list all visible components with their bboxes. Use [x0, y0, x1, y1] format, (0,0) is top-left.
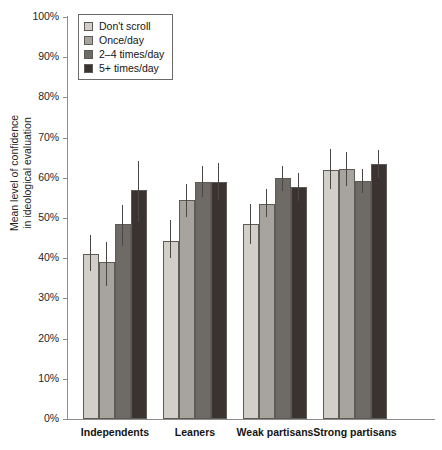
- legend-swatch-icon: [84, 64, 93, 73]
- error-bar: [138, 161, 139, 222]
- legend-item[interactable]: 2–4 times/day: [84, 47, 164, 61]
- error-bar: [330, 149, 331, 189]
- bar[interactable]: [179, 200, 195, 419]
- error-bar: [122, 205, 123, 246]
- bar[interactable]: [323, 170, 339, 419]
- error-bar: [90, 235, 91, 271]
- bar[interactable]: [339, 169, 355, 419]
- bar[interactable]: [291, 187, 307, 419]
- y-axis-tick-mark: [63, 419, 68, 420]
- bar-group: [323, 17, 387, 419]
- bar[interactable]: [163, 241, 179, 419]
- bar[interactable]: [243, 224, 259, 419]
- bar[interactable]: [211, 182, 227, 419]
- legend-swatch-icon: [84, 50, 93, 59]
- legend-item[interactable]: 5+ times/day: [84, 61, 164, 75]
- bar[interactable]: [355, 181, 371, 419]
- error-bar: [298, 173, 299, 201]
- y-axis-tick-label: 60%: [38, 171, 59, 184]
- bar[interactable]: [115, 224, 131, 419]
- error-bar: [250, 204, 251, 243]
- error-bar: [346, 152, 347, 186]
- legend-label: 5+ times/day: [99, 61, 159, 75]
- y-axis-tick-label: 20%: [38, 332, 59, 345]
- bar[interactable]: [275, 178, 291, 419]
- error-bar: [106, 242, 107, 286]
- y-axis-tick-label: 30%: [38, 291, 59, 304]
- bar[interactable]: [371, 164, 387, 419]
- bar-chart: Mean level of confidence in ideological …: [0, 0, 442, 450]
- error-bar: [266, 189, 267, 217]
- bar[interactable]: [83, 254, 99, 419]
- error-bar: [362, 169, 363, 193]
- bar[interactable]: [195, 182, 211, 419]
- error-bar: [202, 166, 203, 197]
- error-bar: [378, 150, 379, 178]
- bar-group: [243, 17, 307, 419]
- y-axis-tick-label: 100%: [33, 10, 59, 23]
- x-axis-line: [67, 419, 435, 420]
- legend-item[interactable]: Once/day: [84, 33, 164, 47]
- legend-label: Don't scroll: [99, 19, 151, 33]
- y-axis-title-line-1: Mean level of confidence: [8, 78, 21, 268]
- error-bar: [186, 184, 187, 217]
- bar[interactable]: [99, 262, 115, 419]
- y-axis-tick-label: 10%: [38, 372, 59, 385]
- y-axis-title: Mean level of confidence in ideological …: [8, 78, 34, 268]
- y-axis-tick-label: 80%: [38, 90, 59, 103]
- legend-label: Once/day: [99, 33, 144, 47]
- y-axis-tick-label: 50%: [38, 211, 59, 224]
- y-axis-tick-label: 0%: [44, 412, 59, 425]
- x-axis-category-label: Strong partisans: [295, 426, 415, 438]
- legend: Don't scrollOnce/day2–4 times/day5+ time…: [78, 14, 173, 80]
- error-bar: [218, 163, 219, 200]
- legend-label: 2–4 times/day: [99, 47, 164, 61]
- legend-swatch-icon: [84, 22, 93, 31]
- error-bar: [282, 166, 283, 191]
- y-axis-tick-label: 70%: [38, 131, 59, 144]
- y-axis-title-line-2: in ideological evaluation: [21, 78, 34, 268]
- bar[interactable]: [131, 190, 147, 419]
- y-axis-tick-label: 90%: [38, 50, 59, 63]
- legend-swatch-icon: [84, 36, 93, 45]
- bar[interactable]: [259, 204, 275, 419]
- error-bar: [170, 220, 171, 258]
- legend-item[interactable]: Don't scroll: [84, 19, 164, 33]
- y-axis-tick-label: 40%: [38, 251, 59, 264]
